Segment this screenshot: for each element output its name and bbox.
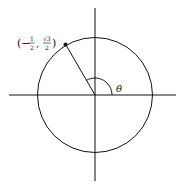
point-marker xyxy=(64,43,68,47)
x-numerator: 1 xyxy=(30,35,34,42)
close-paren: ) xyxy=(52,37,56,50)
x-denominator: 2 xyxy=(30,44,34,51)
point-label: (− 1 2 , √3 2 ) xyxy=(17,35,56,51)
y-numerator: √3 xyxy=(43,35,51,42)
theta-label: θ xyxy=(116,83,122,94)
comma: , xyxy=(36,38,39,49)
y-denominator: 2 xyxy=(45,44,49,51)
radius-line xyxy=(66,45,95,95)
unit-circle-diagram: θ (− 1 2 , √3 2 ) xyxy=(0,0,186,187)
open-paren: (− xyxy=(17,37,31,50)
